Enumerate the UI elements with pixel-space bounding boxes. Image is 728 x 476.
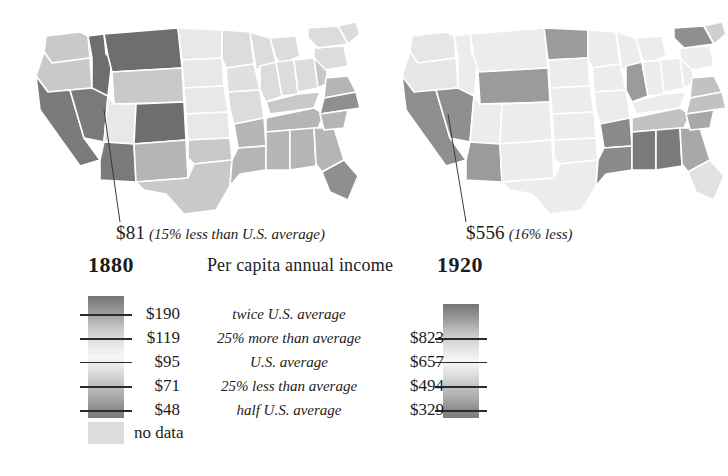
state-co: [500, 102, 552, 144]
legend-desc-1: 25% more than average: [196, 330, 382, 347]
state-ms: [632, 130, 656, 170]
legend-desc-0: twice U.S. average: [196, 306, 382, 323]
state-ne: [184, 86, 228, 114]
state-co: [134, 102, 186, 144]
choropleth-map-1880: [8, 14, 360, 224]
legend-value-right-3: $494: [382, 376, 444, 396]
state-ks: [186, 112, 230, 140]
state-mn: [222, 30, 254, 68]
callout-1880-note: (15% less than U.S. average): [149, 226, 325, 242]
callout-1920-amount: $556: [466, 222, 505, 243]
state-nd: [178, 28, 222, 60]
state-az: [100, 142, 136, 182]
state-sc: [686, 110, 714, 130]
legend-value-right-4: $329: [382, 400, 444, 420]
state-nm: [500, 140, 554, 182]
map-1880-svg: [8, 14, 360, 224]
state-nm: [134, 140, 188, 182]
page-title: Per capita annual income: [175, 255, 425, 276]
state-sd: [548, 58, 590, 88]
state-mt: [104, 28, 182, 72]
legend-desc-2: U.S. average: [196, 354, 382, 371]
state-ar: [600, 118, 632, 148]
state-ut: [470, 96, 502, 144]
legend: $190 twice U.S. average $119 25% more th…: [0, 290, 728, 450]
callout-1920-note: (16% less): [509, 226, 573, 242]
callout-1880: $81(15% less than U.S. average): [116, 222, 325, 244]
state-mt: [470, 28, 548, 72]
state-al: [290, 128, 316, 170]
legend-desc-3: 25% less than average: [196, 378, 382, 395]
legend-value-left-2: $95: [118, 352, 180, 372]
state-ia: [226, 64, 260, 92]
legend-value-left-3: $71: [118, 376, 180, 396]
legend-value-right-2: $657: [382, 352, 444, 372]
year-label-1880: 1880: [88, 252, 134, 278]
state-al: [656, 128, 682, 170]
state-mn: [588, 30, 620, 68]
state-ne: [550, 86, 594, 114]
state-la: [230, 146, 266, 186]
legend-desc-4: half U.S. average: [196, 402, 382, 419]
map-1920-svg: [378, 14, 726, 224]
state-la: [596, 146, 632, 186]
choropleth-map-1920: [378, 14, 726, 224]
state-ia: [592, 64, 626, 92]
callout-1880-amount: $81: [116, 222, 145, 243]
graphic-canvas: $81(15% less than U.S. average) $556(16%…: [0, 0, 728, 476]
state-ms: [266, 130, 290, 170]
state-ut: [104, 96, 136, 144]
legend-no-data-swatch: [88, 422, 124, 444]
legend-gradient-bar-1920: [443, 304, 479, 418]
state-wy: [112, 68, 184, 104]
state-az: [466, 142, 502, 182]
state-ar: [234, 118, 266, 148]
legend-no-data-label: no data: [134, 423, 184, 443]
legend-value-right-1: $823: [382, 328, 444, 348]
legend-value-left-0: $190: [118, 304, 180, 324]
state-sd: [182, 58, 224, 88]
year-label-1920: 1920: [437, 252, 483, 278]
callout-1920: $556(16% less): [466, 222, 573, 244]
state-sc: [320, 110, 348, 130]
state-ks: [552, 112, 596, 140]
state-nd: [544, 28, 588, 60]
title-row: 1880 Per capita annual income 1920: [0, 252, 728, 282]
legend-value-left-1: $119: [118, 328, 180, 348]
state-wy: [478, 68, 550, 104]
legend-value-left-4: $48: [118, 400, 180, 420]
